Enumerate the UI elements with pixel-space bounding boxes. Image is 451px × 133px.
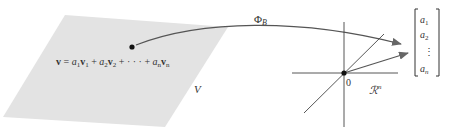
- vector-entry-an: an: [420, 63, 429, 76]
- space-label-v: V: [194, 83, 202, 95]
- left-bracket: [415, 9, 418, 76]
- vector-point: [129, 44, 134, 49]
- vector-space-plane: [3, 15, 228, 127]
- origin-point: [341, 70, 346, 75]
- coordinate-vector-arrow: [344, 53, 408, 73]
- coordinate-mapping-diagram: v = a1v1 + a2v2 + · · · + anvn V ΦB 0 ℛn…: [0, 0, 451, 133]
- origin-label: 0: [346, 77, 351, 88]
- target-space-label: ℛn: [369, 83, 382, 96]
- mapping-label: ΦB: [254, 13, 267, 27]
- vector-entry-a1: a1: [420, 14, 429, 27]
- vector-entry-a2: a2: [420, 29, 429, 42]
- vector-entry-dots: ⋮: [424, 46, 434, 57]
- right-bracket: [436, 9, 439, 76]
